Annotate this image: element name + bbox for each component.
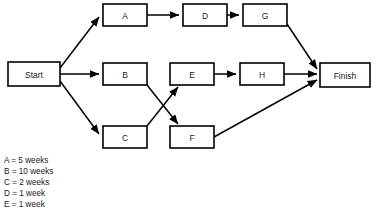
node-c[interactable]: C [103, 126, 147, 148]
legend-layer: A = 5 weeksB = 10 weeksC = 2 weeksD = 1 … [4, 156, 53, 208]
node-finish[interactable]: Finish [320, 63, 370, 87]
node-a[interactable]: A [103, 4, 147, 26]
node-label-start: Start [25, 70, 44, 80]
legend-item-legend-a: A = 5 weeks [4, 156, 48, 165]
edge-start-a [60, 17, 99, 68]
node-label-h: H [259, 70, 265, 80]
node-f[interactable]: F [170, 126, 214, 148]
node-h[interactable]: H [240, 63, 284, 85]
legend-item-legend-e: E = 1 week [4, 200, 46, 208]
node-label-g: G [262, 11, 269, 21]
node-label-finish: Finish [334, 71, 357, 81]
node-label-c: C [122, 133, 128, 143]
node-start[interactable]: Start [8, 62, 60, 86]
node-e[interactable]: E [170, 63, 214, 85]
nodes-layer: StartADGBEHCFFinish [8, 4, 370, 148]
legend-item-legend-b: B = 10 weeks [4, 167, 53, 176]
diagram-svg: StartADGBEHCFFinish A = 5 weeksB = 10 we… [0, 0, 378, 208]
edge-b-f [147, 85, 178, 124]
node-label-b: B [122, 70, 128, 80]
node-label-f: F [189, 133, 194, 143]
edge-start-c [60, 81, 99, 134]
node-g[interactable]: G [243, 4, 287, 26]
network-diagram-canvas: StartADGBEHCFFinish A = 5 weeksB = 10 we… [0, 0, 378, 208]
edge-f-finish [214, 80, 317, 137]
node-label-d: D [202, 11, 208, 21]
node-b[interactable]: B [103, 63, 147, 85]
edge-g-finish [287, 24, 317, 69]
legend-item-legend-c: C = 2 weeks [4, 178, 49, 187]
node-label-e: E [189, 70, 195, 80]
node-label-a: A [122, 11, 128, 21]
legend-item-legend-d: D = 1 week [4, 189, 46, 198]
node-d[interactable]: D [183, 4, 227, 26]
edge-c-e [147, 87, 178, 126]
